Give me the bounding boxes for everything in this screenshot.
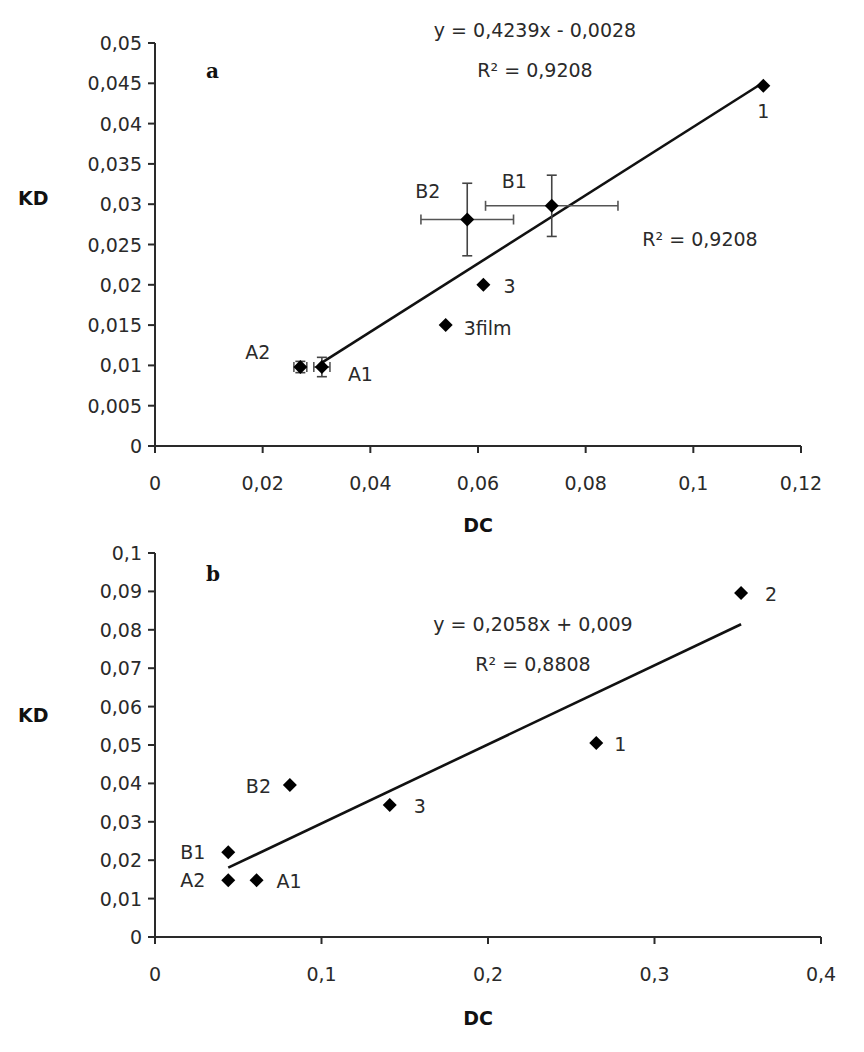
y-tick-label: 0,015	[88, 314, 142, 336]
x-tick-label: 0,3	[639, 963, 669, 985]
data-point-label: A1	[277, 870, 302, 892]
data-point-label: B1	[180, 841, 205, 863]
data-point-label: A2	[245, 341, 270, 363]
data-point-label: B1	[502, 170, 527, 192]
x-tick-label: 0	[149, 963, 161, 985]
data-point-marker	[734, 586, 748, 600]
x-axis-title: DC	[463, 514, 493, 536]
data-point-label: 1	[614, 733, 626, 755]
data-point-marker	[589, 736, 603, 750]
y-tick-label: 0,01	[100, 888, 142, 910]
x-tick-label: 0,4	[806, 963, 836, 985]
data-point-label: 3film	[464, 317, 512, 339]
data-point-marker	[756, 79, 770, 93]
data-point-marker	[315, 360, 329, 374]
y-tick-label: 0,045	[88, 72, 142, 94]
x-tick-label: 0,02	[242, 472, 284, 494]
data-point-marker	[439, 318, 453, 332]
x-tick-label: 0,12	[780, 472, 822, 494]
figure: 00,0050,010,0150,020,0250,030,0350,040,0…	[0, 0, 864, 1052]
data-point-label: 2	[765, 583, 777, 605]
y-tick-label: 0,035	[88, 153, 142, 175]
y-axis-title: KD	[18, 187, 49, 209]
data-point-label: A2	[180, 869, 205, 891]
x-tick-label: 0,06	[457, 472, 499, 494]
r-squared-side-label: R² = 0,9208	[642, 228, 757, 250]
y-tick-label: 0,1	[112, 542, 142, 564]
data-point-label: 1	[757, 100, 769, 122]
y-tick-label: 0	[130, 926, 142, 948]
y-tick-label: 0,03	[100, 811, 142, 833]
data-point-marker	[221, 845, 235, 859]
x-tick-label: 0,2	[473, 963, 503, 985]
y-tick-label: 0,02	[100, 849, 142, 871]
y-axis-title: KD	[18, 704, 49, 726]
data-point-marker	[545, 199, 559, 213]
trendline-equation: y = 0,2058x + 0,009	[433, 613, 632, 635]
data-point-marker	[460, 213, 474, 227]
y-tick-label: 0,01	[100, 354, 142, 376]
data-point-marker	[383, 798, 397, 812]
y-tick-label: 0,08	[100, 619, 142, 641]
y-tick-label: 0,025	[88, 234, 142, 256]
panel-letter: a	[206, 59, 219, 83]
x-axis-title: DC	[463, 1007, 493, 1029]
panel-letter: b	[206, 562, 220, 586]
r-squared-label: R² = 0,9208	[477, 59, 592, 81]
y-tick-label: 0,05	[100, 734, 142, 756]
data-point-label: B2	[415, 180, 440, 202]
y-tick-label: 0,07	[100, 657, 142, 679]
data-point-label: 3	[414, 795, 426, 817]
x-tick-label: 0,08	[565, 472, 607, 494]
data-point-marker	[476, 278, 490, 292]
y-tick-label: 0,09	[100, 580, 142, 602]
y-tick-label: 0	[130, 435, 142, 457]
data-point-label: B2	[246, 775, 271, 797]
data-point-marker	[250, 873, 264, 887]
x-tick-label: 0,1	[678, 472, 708, 494]
r-squared-label: R² = 0,8808	[475, 653, 590, 675]
y-tick-label: 0,05	[100, 32, 142, 54]
trendline-equation: y = 0,4239x - 0,0028	[434, 19, 636, 41]
y-tick-label: 0,005	[88, 395, 142, 417]
y-tick-label: 0,02	[100, 274, 142, 296]
y-tick-label: 0,03	[100, 193, 142, 215]
x-tick-label: 0,04	[349, 472, 391, 494]
data-point-label: 3	[503, 275, 515, 297]
chart-panel-b: 00,010,020,030,040,050,060,070,080,090,1…	[18, 542, 836, 1029]
y-tick-label: 0,04	[100, 113, 142, 135]
x-tick-label: 0	[149, 472, 161, 494]
trendline	[322, 82, 763, 362]
y-tick-label: 0,06	[100, 696, 142, 718]
data-point-marker	[221, 873, 235, 887]
data-point-marker	[283, 778, 297, 792]
y-tick-label: 0,04	[100, 772, 142, 794]
data-point-label: A1	[348, 363, 373, 385]
chart-panel-a: 00,0050,010,0150,020,0250,030,0350,040,0…	[18, 19, 822, 536]
x-tick-label: 0,1	[306, 963, 336, 985]
